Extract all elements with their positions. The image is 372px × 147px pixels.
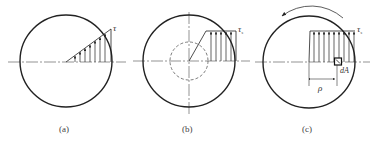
panel-c: dA ρ τs (c) bbox=[255, 6, 370, 134]
cross-section-circle bbox=[20, 15, 112, 107]
stress-distribution-outline bbox=[66, 29, 111, 62]
stress-label-tau: τ bbox=[113, 23, 117, 33]
torsion-stress-diagram: τ (a) τs (b) bbox=[0, 0, 372, 147]
radius-label-rho: ρ bbox=[317, 83, 323, 93]
panel-b: τs (b) bbox=[133, 12, 250, 134]
stress-label-tau-s: τs bbox=[357, 24, 362, 35]
caption-b: (b) bbox=[182, 124, 193, 134]
stress-label-tau-s: τs bbox=[238, 24, 243, 35]
caption-c: (c) bbox=[302, 124, 312, 134]
stress-distribution-outline bbox=[309, 31, 355, 62]
panel-a: τ (a) bbox=[8, 15, 126, 134]
area-label-dA: dA bbox=[340, 66, 349, 75]
caption-a: (a) bbox=[59, 124, 69, 134]
stress-distribution-outline bbox=[189, 31, 236, 61]
stress-arrows bbox=[75, 34, 105, 62]
